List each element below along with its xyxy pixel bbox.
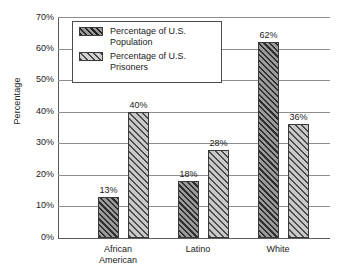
x-category-label-white: White — [248, 244, 308, 255]
x-category-white-line1: White — [266, 244, 289, 254]
bar-latino-prisoners — [208, 150, 229, 238]
legend-entry-population: Percentage of U.S.Population — [79, 26, 216, 48]
bar-white-population — [258, 42, 279, 238]
legend-swatch-prisoners-icon — [79, 52, 103, 61]
y-tick-label-0: 0% — [8, 232, 54, 242]
bar-value-african-american-prisoners: 40% — [119, 100, 158, 110]
legend-label-population-line2: Population — [110, 37, 153, 47]
legend-label-population: Percentage of U.S.Population — [110, 26, 186, 48]
gridline-baseline-0 — [58, 238, 330, 239]
bar-latino-population — [178, 181, 199, 238]
legend-label-prisoners-line2: Prisoners — [110, 62, 148, 72]
y-tick-label-40: 40% — [8, 106, 54, 116]
legend-label-population-line1: Percentage of U.S. — [110, 26, 186, 36]
x-category-label-african-american: African American — [88, 244, 148, 266]
bar-african-american-population — [98, 197, 119, 238]
bar-value-latino-population: 18% — [169, 169, 208, 179]
legend-label-prisoners-line1: Percentage of U.S. — [110, 51, 186, 61]
bar-african-american-prisoners — [128, 112, 149, 238]
bar-value-african-american-population: 13% — [89, 185, 128, 195]
x-category-african-american-line2: American — [99, 255, 137, 265]
y-tick-label-30: 30% — [8, 137, 54, 147]
y-tick-label-50: 50% — [8, 74, 54, 84]
plot-area: 13% 40% 18% 28% 62% 36% Percentage of U.… — [58, 17, 330, 238]
y-axis-line — [58, 17, 59, 238]
bar-value-white-population: 62% — [249, 30, 288, 40]
y-tick-label-20: 20% — [8, 169, 54, 179]
x-category-african-american-line1: African — [104, 244, 132, 254]
bar-white-prisoners — [288, 124, 309, 238]
y-tick-label-70: 70% — [8, 12, 54, 22]
legend-swatch-population-icon — [79, 27, 103, 36]
y-tick-label-60: 60% — [8, 43, 54, 53]
gridline-70 — [58, 17, 330, 18]
bar-value-latino-prisoners: 28% — [199, 138, 238, 148]
x-category-label-latino: Latino — [168, 244, 228, 255]
y-tick-label-10: 10% — [8, 200, 54, 210]
chart-legend: Percentage of U.S.Population Percentage … — [72, 21, 222, 83]
y-axis-title: Percentage — [12, 56, 22, 146]
x-category-latino-line1: Latino — [186, 244, 211, 254]
legend-label-prisoners: Percentage of U.S.Prisoners — [110, 51, 186, 73]
bar-value-white-prisoners: 36% — [279, 112, 318, 122]
legend-entry-prisoners: Percentage of U.S.Prisoners — [79, 51, 216, 73]
bar-chart: Percentage 70% 60% 50% 40% 30% 20% 10% 0… — [0, 0, 342, 274]
